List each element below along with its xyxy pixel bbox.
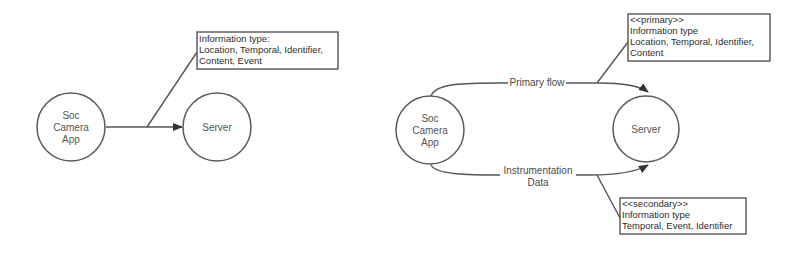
right-diagram: Primary flow Instrumentation Data Soc Ca…	[396, 14, 770, 234]
note-line: Information type:	[199, 33, 270, 44]
server-node[interactable]: Server	[613, 96, 679, 162]
primary-flow-label: Primary flow	[509, 77, 565, 88]
soc-camera-app-node[interactable]: Soc Camera App	[37, 93, 105, 161]
secondary-flow-label-line: Instrumentation	[504, 165, 573, 176]
secondary-flow-label-line: Data	[527, 177, 549, 188]
secondary-note-connector	[597, 175, 620, 218]
primary-note-connector	[597, 42, 628, 83]
note-line: Content	[630, 47, 664, 58]
node-label-line: Soc	[421, 113, 438, 124]
note-line: Location, Temporal, Identifier,	[630, 36, 754, 47]
information-type-note: Information type: Location, Temporal, Id…	[197, 32, 338, 69]
note-line: Information type	[630, 25, 698, 36]
note-line: Temporal, Event, Identifier	[622, 220, 732, 231]
note-line: Content, Event	[199, 55, 262, 66]
node-label-line: Server	[202, 122, 232, 133]
left-diagram: Soc Camera App Server Information type: …	[37, 32, 338, 161]
node-label-line: Server	[631, 124, 661, 135]
node-label-line: App	[62, 134, 80, 145]
primary-information-note: <<primary>> Information type Location, T…	[628, 14, 770, 61]
note-line: Information type	[622, 209, 690, 220]
note-line: <<primary>>	[630, 14, 684, 25]
node-label-line: Soc	[62, 110, 79, 121]
soc-camera-app-node[interactable]: Soc Camera App	[396, 96, 464, 164]
diagram-canvas: Soc Camera App Server Information type: …	[0, 0, 806, 255]
server-node[interactable]: Server	[183, 93, 251, 161]
note-line: <<secondary>>	[622, 198, 688, 209]
node-label-line: Camera	[53, 122, 89, 133]
node-label-line: App	[421, 137, 439, 148]
secondary-information-note: <<secondary>> Information type Temporal,…	[620, 198, 746, 234]
node-label-line: Camera	[412, 125, 448, 136]
note-line: Location, Temporal, Identifier,	[199, 44, 323, 55]
